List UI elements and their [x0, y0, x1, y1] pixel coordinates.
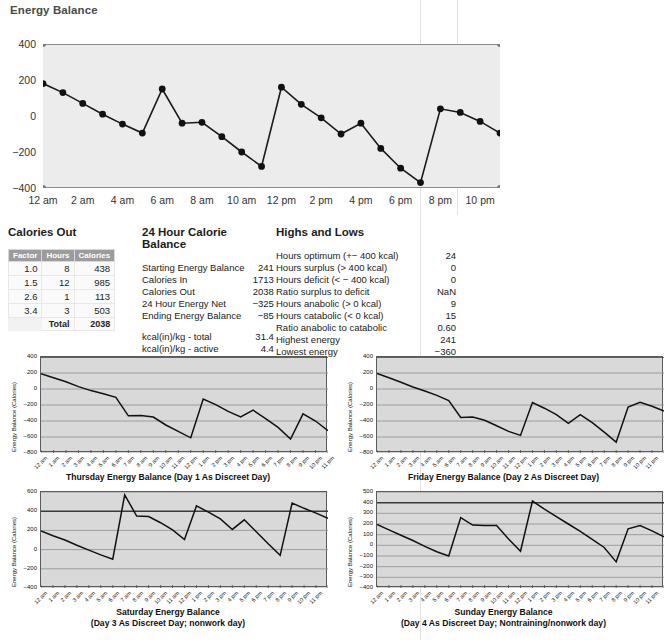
y-axis-tick: −600: [352, 433, 373, 439]
y-axis-tick: −400: [352, 584, 373, 590]
col-calories: Calories: [74, 250, 115, 262]
main-chart-y-tick: −200: [0, 146, 36, 158]
highs-row-label: Hours anabolic (> 0 kcal): [276, 297, 421, 309]
chart-line-svg: [377, 357, 664, 453]
highs-row-label: Ratio surplus to deficit: [276, 285, 421, 297]
y-axis-tick: −400: [16, 584, 37, 590]
data-point: [377, 145, 384, 152]
table-row: Ratio anabolic to catabolic0.60: [276, 321, 456, 333]
summary-panels: Calories Out Factor Hours Calories 1.084…: [0, 226, 671, 344]
balance-row-value: −325: [244, 297, 273, 309]
cell-calories: 438: [74, 262, 115, 276]
table-row: Hours deficit (< − 400 kcal)0: [276, 273, 456, 285]
chart-line-svg: [41, 357, 328, 453]
y-axis-tick: 100: [352, 531, 373, 537]
col-factor: Factor: [9, 250, 42, 262]
balance-row-label: 24 Hour Energy Net: [142, 297, 244, 309]
y-axis-tick: −200: [16, 565, 37, 571]
chart-caption-line-1: Friday Energy Balance (Day 2 As Discreet…: [336, 472, 671, 483]
chart-caption-line-1: Sunday Energy Balance: [336, 607, 671, 618]
y-axis-tick: 200: [352, 369, 373, 375]
y-axis-label: Energy Balance (Calories): [11, 517, 17, 587]
table-row: Ratio surplus to deficitNaN: [276, 285, 456, 297]
y-axis-tick: 400: [352, 499, 373, 505]
data-point: [179, 120, 186, 127]
main-chart-x-tick: 12 pm: [267, 194, 296, 206]
data-point: [218, 133, 225, 140]
panel-24-hour-calorie-balance: 24 Hour Calorie Balance Starting Energy …: [142, 226, 272, 354]
chart-caption: Thursday Energy Balance (Day 1 As Discre…: [0, 472, 336, 483]
main-chart-y-tick: −400: [0, 182, 36, 194]
y-axis-tick: 0: [16, 546, 37, 552]
y-axis-tick: −100: [352, 552, 373, 558]
chart-line-svg: [377, 492, 664, 588]
y-axis-tick: 500: [352, 488, 373, 494]
balance-row-label: Calories In: [142, 273, 244, 285]
panel-calories-out: Calories Out Factor Hours Calories 1.084…: [8, 226, 128, 331]
y-axis-tick: 400: [16, 353, 37, 359]
chart-caption-line-1: Thursday Energy Balance (Day 1 As Discre…: [0, 472, 336, 483]
y-axis-tick: 200: [352, 520, 373, 526]
highs-row-label: Hours optimum (+− 400 kcal): [276, 249, 421, 261]
cell-hours: 1: [42, 290, 74, 304]
y-axis-tick: −600: [16, 433, 37, 439]
chart-saturday-energy-balance: 6004002000−200−400Energy Balance (Calori…: [0, 487, 336, 637]
data-point: [99, 111, 106, 118]
highs-row-label: Hours catabolic (< 0 kcal): [276, 309, 421, 321]
highs-row-value: NaN: [421, 285, 456, 297]
cell-calories: 985: [74, 276, 115, 290]
data-point: [159, 86, 166, 93]
cell-total-value: 2038: [74, 318, 115, 331]
data-point: [119, 121, 126, 128]
table-row: 1.08438: [9, 262, 115, 276]
y-axis-tick: −300: [352, 573, 373, 579]
main-chart-x-tick: 8 am: [190, 194, 213, 206]
data-point: [338, 131, 345, 138]
y-axis-tick: 600: [16, 488, 37, 494]
data-point: [318, 114, 325, 121]
panel-24h-title: 24 Hour Calorie Balance: [142, 226, 272, 250]
y-axis-tick: −400: [352, 417, 373, 423]
table-row: 3.43503: [9, 304, 115, 318]
table-row: Calories In1713: [142, 273, 274, 285]
y-axis-tick: −800: [352, 449, 373, 455]
highs-row-value: 0: [421, 261, 456, 273]
table-row: Highest energy241: [276, 333, 456, 345]
data-point: [397, 165, 404, 172]
cell-hours: 8: [42, 262, 74, 276]
chart-thursday-energy-balance: 4002000−200−400−600−800Energy Balance (C…: [0, 352, 336, 487]
table-row: Starting Energy Balance241: [142, 261, 274, 273]
table-row: Hours anabolic (> 0 kcal)9: [276, 297, 456, 309]
cell-total-label: Total: [42, 318, 74, 331]
balance-row-value: 241: [244, 261, 273, 273]
table-row: 2.61113: [9, 290, 115, 304]
main-chart-x-tick: 10 am: [227, 194, 256, 206]
highs-row-label: Hours deficit (< − 400 kcal): [276, 273, 421, 285]
data-point: [139, 130, 146, 137]
y-axis-tick: −200: [352, 563, 373, 569]
cell-factor: 1.0: [9, 262, 42, 276]
y-axis-tick: −800: [16, 449, 37, 455]
data-point: [477, 118, 484, 125]
data-point: [417, 179, 424, 186]
kcal-row-label: kcal(in)/kg - total: [142, 330, 244, 342]
main-chart-x-tick: 6 pm: [389, 194, 412, 206]
y-axis-tick: 0: [352, 385, 373, 391]
data-point: [278, 84, 285, 91]
cell-hours: 3: [42, 304, 74, 318]
calories-out-table: Factor Hours Calories 1.084381.5129852.6…: [8, 249, 115, 331]
cell-factor: 2.6: [9, 290, 42, 304]
balance-row-value: −85: [244, 309, 273, 321]
balance-row-label: Calories Out: [142, 285, 244, 297]
table-row: 1.512985: [9, 276, 115, 290]
y-axis-tick: −400: [16, 417, 37, 423]
cell-hours: 12: [42, 276, 74, 290]
y-axis-tick: 0: [352, 541, 373, 547]
data-point: [79, 100, 86, 107]
balance-row-value: 2038: [244, 285, 273, 297]
main-chart-y-tick: 0: [0, 110, 36, 122]
main-chart-line: [43, 44, 500, 188]
main-chart-x-tick: 2 pm: [310, 194, 333, 206]
chart-caption: Saturday Energy Balance(Day 3 As Discree…: [0, 607, 336, 628]
cell-calories: 113: [74, 290, 115, 304]
